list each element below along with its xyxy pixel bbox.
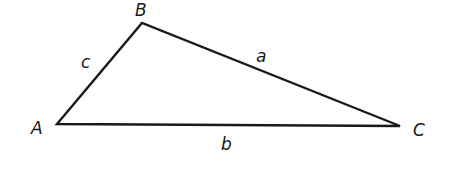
triangle-svg: B A C c a b bbox=[0, 0, 454, 183]
side-label-c: c bbox=[81, 52, 91, 72]
vertex-label-c: C bbox=[413, 120, 425, 140]
side-label-b: b bbox=[221, 134, 232, 154]
vertex-label-b: B bbox=[135, 0, 147, 20]
vertex-label-a: A bbox=[30, 118, 43, 138]
triangle-diagram: B A C c a b bbox=[0, 0, 454, 183]
triangle-abc bbox=[57, 23, 400, 126]
side-label-a: a bbox=[256, 46, 266, 66]
